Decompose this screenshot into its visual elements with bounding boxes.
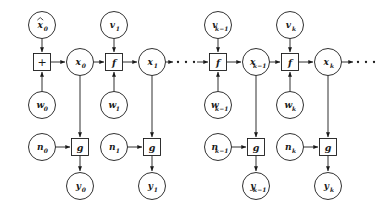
- step-k-minus-1-state-node: xk−1: [243, 49, 270, 76]
- step-0-output-node: y0: [67, 173, 94, 200]
- step-k-process-noise-node-subscript: k: [292, 105, 296, 112]
- step-1-output-function-box: g: [144, 139, 161, 156]
- step-1-measurement-noise-node-label: n: [109, 142, 116, 152]
- step-0-state-node-label: x: [75, 57, 82, 67]
- step-1-measurement-noise-node: n1: [101, 134, 128, 161]
- ellipsis-end-dot: [357, 61, 359, 63]
- step-k-minus-1-output-function-box: g: [248, 139, 265, 156]
- step-k-minus-1-state-node-subscript: k−1: [253, 62, 266, 69]
- step-0-output-node-label: y: [75, 181, 82, 191]
- step-1-state-node-label: x: [147, 57, 154, 67]
- diagram-canvas: x0w0n0+x0gy0v1w1n1fx1gy1vk−1wk−1nk−1fxk−…: [0, 0, 384, 211]
- step-1-process-noise-node: w1: [101, 92, 128, 119]
- step-1-state-node: x1: [139, 49, 166, 76]
- step-1-state-node-subscript: 1: [154, 62, 158, 69]
- ellipsis-end-dot: [373, 61, 375, 63]
- step-0-input-node-label: x: [37, 20, 44, 30]
- step-k-output-function-box-label: g: [325, 142, 332, 153]
- step-0-operator-box: +: [34, 54, 51, 71]
- step-k-output-node-label: y: [323, 181, 330, 191]
- step-0-measurement-noise-node: n0: [29, 134, 56, 161]
- ellipsis-mid-dot: [177, 61, 179, 63]
- step-1-output-function-box-label: g: [149, 142, 156, 153]
- step-1-input-node: v1: [101, 12, 128, 39]
- step-k-state-node-subscript: k: [330, 62, 334, 69]
- step-k-input-node-subscript: k: [292, 25, 296, 32]
- step-k-minus-1-measurement-noise-node: nk−1: [205, 134, 232, 161]
- step-k-minus-1-measurement-noise-node-subscript: k−1: [215, 147, 228, 154]
- step-k-minus-1-operator-box: f: [210, 54, 227, 71]
- step-1-process-noise-node-subscript: 1: [116, 105, 120, 112]
- step-k-output-node-subscript: k: [330, 186, 334, 193]
- ellipsis-mid-dot: [193, 61, 195, 63]
- step-k-output-node: yk: [315, 173, 342, 200]
- step-0-output-function-box: g: [72, 139, 89, 156]
- step-1-input-node-subscript: 1: [116, 25, 120, 32]
- step-1-output-node-subscript: 1: [154, 186, 158, 193]
- step-1-measurement-noise-node-subscript: 1: [116, 147, 120, 154]
- step-k-process-noise-node: wk: [277, 92, 304, 119]
- ellipsis-end: [357, 61, 375, 63]
- step-k-measurement-noise-node-label: n: [285, 142, 292, 152]
- step-0-input-node: x0: [29, 12, 56, 39]
- ellipsis-mid: [177, 61, 195, 63]
- ellipsis-end-dot: [365, 61, 367, 63]
- step-k-minus-1-output-node-subscript: k−1: [253, 186, 266, 193]
- step-k-output-function-box: g: [320, 139, 337, 156]
- ellipsis-mid-dot: [185, 61, 187, 63]
- step-k-minus-1-output-function-box-label: g: [253, 142, 260, 153]
- state-space-diagram: x0w0n0+x0gy0v1w1n1fx1gy1vk−1wk−1nk−1fxk−…: [0, 0, 384, 211]
- step-1-output-node-label: y: [147, 181, 154, 191]
- step-0-operator-box-label: +: [37, 56, 46, 69]
- step-0-process-noise-node: w0: [29, 92, 56, 119]
- step-k-minus-1-output-node: yk−1: [243, 173, 270, 200]
- step-1-output-node: y1: [139, 173, 166, 200]
- step-k-minus-1-input-node-subscript: k−1: [215, 25, 228, 32]
- step-k-state-node: xk: [315, 49, 342, 76]
- step-0-state-node: x0: [67, 49, 94, 76]
- step-1-operator-box: f: [106, 54, 123, 71]
- step-0-output-function-box-label: g: [77, 142, 84, 153]
- step-0-measurement-noise-node-label: n: [37, 142, 44, 152]
- step-k-operator-box: f: [282, 54, 299, 71]
- step-k-input-node-label: v: [286, 20, 292, 30]
- step-k-minus-1-input-node: vk−1: [205, 12, 232, 39]
- step-k-input-node: vk: [277, 12, 304, 39]
- step-k-measurement-noise-node-subscript: k: [292, 147, 296, 154]
- step-k-measurement-noise-node: nk: [277, 134, 304, 161]
- step-k-minus-1-process-noise-node-subscript: k−1: [215, 105, 228, 112]
- nodes-layer: x0w0n0+x0gy0v1w1n1fx1gy1vk−1wk−1nk−1fxk−…: [29, 12, 376, 200]
- step-1-input-node-label: v: [110, 20, 116, 30]
- step-k-state-node-label: x: [323, 57, 330, 67]
- step-k-minus-1-process-noise-node: wk−1: [205, 92, 232, 119]
